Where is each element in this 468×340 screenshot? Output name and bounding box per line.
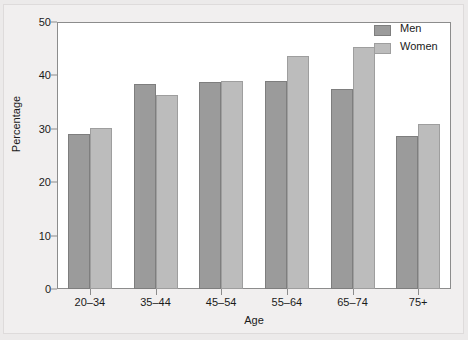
x-axis-tick-marks	[57, 289, 451, 296]
chart-legend: MenWomen	[374, 22, 448, 58]
x-axis-tick-mark	[418, 289, 419, 295]
bar-women-55-64	[287, 56, 309, 289]
x-axis-tick-label: 35–44	[140, 296, 171, 308]
bar-men-65-74	[331, 89, 353, 289]
legend-label-men: Men	[400, 22, 421, 34]
bar-men-45-54	[199, 82, 221, 289]
x-axis-label: Age	[57, 314, 451, 326]
x-axis-tick-mark	[90, 289, 91, 295]
y-axis-tick-marks	[0, 22, 57, 289]
x-axis-tick-label: 45–54	[206, 296, 237, 308]
bar-men-35-44	[134, 84, 156, 289]
x-axis-tick-labels: 20–3435–4445–5455–6465–7475+	[57, 296, 451, 312]
plot-area	[57, 22, 451, 289]
x-axis-tick-label: 20–34	[75, 296, 106, 308]
x-axis-tick-mark	[221, 289, 222, 295]
bar-women-20-34	[90, 128, 112, 289]
bar-women-65-74	[353, 47, 375, 289]
x-axis-tick-label: 75+	[409, 296, 428, 308]
x-axis-tick-mark	[156, 289, 157, 295]
x-axis-tick-mark	[287, 289, 288, 295]
bar-women-45-54	[221, 81, 243, 289]
legend-label-women: Women	[400, 40, 438, 52]
legend-swatch-men	[374, 25, 391, 36]
x-axis-tick-label: 65–74	[337, 296, 368, 308]
bar-chart-figure: Percentage 01020304050 20–3435–4445–5455…	[0, 0, 468, 340]
legend-item-men: Men	[374, 22, 448, 40]
bar-women-35-44	[156, 95, 178, 289]
bar-men-75+	[396, 136, 418, 289]
x-axis-tick-mark	[353, 289, 354, 295]
bar-men-20-34	[68, 134, 90, 289]
x-axis-tick-label: 55–64	[272, 296, 303, 308]
bar-women-75+	[418, 124, 440, 289]
bar-men-55-64	[265, 81, 287, 289]
legend-swatch-women	[374, 43, 391, 54]
legend-item-women: Women	[374, 40, 448, 58]
